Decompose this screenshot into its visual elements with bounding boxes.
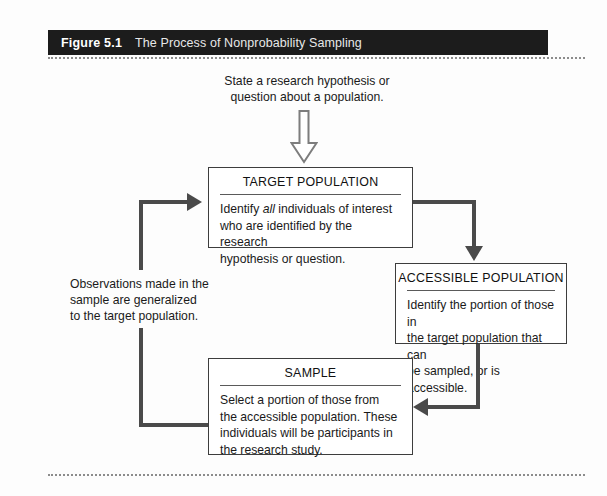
figure-caption: The Process of Nonprobability Sampling	[135, 36, 362, 50]
feedback-text-line-2: sample are generalized	[70, 292, 245, 308]
box-sample-body: Select a portion of those from the acces…	[209, 392, 412, 458]
box-accessible-population-body-line-3: be sampled, or is accessible.	[407, 363, 555, 396]
arrow-right-icon	[187, 193, 202, 211]
box-target-population-body-line-1: Identify all individuals of interest	[220, 201, 401, 218]
box-accessible-population: ACCESSIBLE POPULATION Identify the porti…	[395, 263, 567, 344]
divider-bottom	[48, 474, 585, 476]
divider-top	[48, 57, 585, 59]
box-accessible-population-divider	[407, 290, 555, 291]
box-accessible-population-body: Identify the portion of those in the tar…	[396, 297, 566, 396]
box-target-population-title: TARGET POPULATION	[209, 173, 412, 194]
intro-text-block: State a research hypothesis or question …	[193, 73, 421, 105]
box-target-population-body-line-3: hypothesis or question.	[220, 251, 401, 268]
feedback-text-line-3: to the target population.	[70, 308, 245, 324]
connector-target-to-accessible-horizontal	[413, 200, 476, 204]
intro-text-line-1: State a research hypothesis or	[193, 73, 421, 89]
figure-number: Figure 5.1	[61, 36, 122, 50]
connector-sample-to-target-vertical-upper	[139, 200, 143, 270]
feedback-text-block: Observations made in the sample are gene…	[70, 276, 245, 324]
connector-sample-to-target-vertical-lower	[139, 328, 143, 427]
box-sample-title: SAMPLE	[209, 364, 412, 385]
feedback-text-line-1: Observations made in the	[70, 276, 245, 292]
box-sample-body-line-4: the research study.	[220, 442, 401, 459]
box-target-population: TARGET POPULATION Identify all individua…	[208, 167, 413, 248]
box-sample: SAMPLE Select a portion of those from th…	[208, 358, 413, 455]
connector-sample-to-target-bottom-horizontal	[139, 423, 208, 427]
arrow-down-icon	[465, 246, 483, 261]
box-sample-body-line-2: the accessible population. These	[220, 409, 401, 426]
box-accessible-population-body-line-1: Identify the portion of those in	[407, 297, 555, 330]
box-target-population-divider	[220, 194, 401, 195]
box-accessible-population-title: ACCESSIBLE POPULATION	[396, 269, 566, 290]
connector-sample-to-target-top-horizontal	[139, 200, 187, 204]
box-sample-body-line-1: Select a portion of those from	[220, 392, 401, 409]
box-sample-body-line-3: individuals will be participants in	[220, 425, 401, 442]
box-sample-divider	[220, 385, 401, 386]
box-accessible-population-body-line-2: the target population that can	[407, 330, 555, 363]
figure-page: Figure 5.1 The Process of Nonprobability…	[0, 0, 607, 496]
intro-text-line-2: question about a population.	[193, 89, 421, 105]
box-target-population-body: Identify all individuals of interest who…	[209, 201, 412, 267]
hollow-down-arrow-icon	[290, 110, 318, 168]
connector-accessible-to-sample-vertical	[476, 344, 480, 409]
connector-target-to-accessible-vertical	[472, 200, 476, 246]
connector-accessible-to-sample-horizontal	[428, 405, 480, 409]
arrow-left-icon	[413, 398, 428, 416]
box-target-population-body-line-2: who are identified by the research	[220, 218, 401, 251]
figure-header-bar: Figure 5.1 The Process of Nonprobability…	[48, 30, 548, 55]
